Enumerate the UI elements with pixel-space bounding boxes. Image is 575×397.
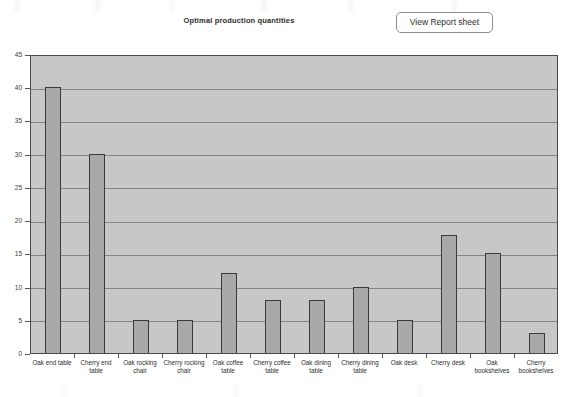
x-axis-tick-mark (118, 354, 119, 358)
y-axis: 051015202530354045 (0, 0, 27, 397)
bar (45, 87, 61, 353)
x-axis-category-label: Cherry desk (426, 359, 470, 367)
x-axis-tick-mark (514, 354, 515, 358)
x-axis-category-label: Oak coffee table (206, 359, 250, 376)
x-axis-category-label: Oak rocking chair (118, 359, 162, 376)
bar (309, 300, 325, 353)
y-axis-tick-mark (25, 221, 30, 222)
gridline (31, 188, 557, 189)
bar (89, 154, 105, 353)
x-axis-category-label: Cherry dining table (338, 359, 382, 376)
x-axis-tick-mark (294, 354, 295, 358)
x-axis-category-label: Cherry coffee table (250, 359, 294, 376)
x-axis-tick-mark (426, 354, 427, 358)
scan-artifact-top (0, 0, 575, 12)
y-axis-tick-label: 15 (0, 250, 22, 257)
x-axis-category-label: Oak dining table (294, 359, 338, 376)
gridline (31, 255, 557, 256)
x-axis-tick-mark (250, 354, 251, 358)
y-axis-tick-label: 10 (0, 284, 22, 291)
gridline (31, 288, 557, 289)
bar (353, 287, 369, 353)
bar (221, 273, 237, 353)
bar (177, 320, 193, 353)
x-axis-tick-mark (162, 354, 163, 358)
y-axis-tick-mark (25, 288, 30, 289)
bar (485, 253, 501, 353)
x-axis-tick-mark (470, 354, 471, 358)
bar (133, 320, 149, 353)
chart-screenshot: Optimal production quantities View Repor… (0, 0, 575, 397)
x-axis-category-label: Cherry rocking chair (162, 359, 206, 376)
x-axis-tick-mark (74, 354, 75, 358)
gridline (31, 222, 557, 223)
plot-area (30, 55, 558, 354)
y-axis-tick-label: 45 (0, 51, 22, 58)
y-axis-tick-mark (25, 354, 30, 355)
x-axis-category-label: Cherry bookshelves (514, 359, 558, 376)
gridline (31, 122, 557, 123)
y-axis-tick-label: 20 (0, 217, 22, 224)
x-axis-tick-mark (206, 354, 207, 358)
x-axis-category-label: Oak end table (30, 359, 74, 367)
gridline (31, 89, 557, 90)
y-axis-tick-label: 25 (0, 184, 22, 191)
y-axis-tick-mark (25, 121, 30, 122)
x-axis-tick-mark (338, 354, 339, 358)
bar (397, 320, 413, 353)
x-axis-tick-mark (382, 354, 383, 358)
y-axis-tick-label: 0 (0, 350, 22, 357)
bar (529, 333, 545, 353)
y-axis-tick-mark (25, 55, 30, 56)
y-axis-tick-mark (25, 254, 30, 255)
y-axis-tick-label: 5 (0, 317, 22, 324)
gridline (31, 321, 557, 322)
y-axis-tick-mark (25, 188, 30, 189)
y-axis-tick-mark (25, 88, 30, 89)
y-axis-tick-mark (25, 321, 30, 322)
y-axis-tick-label: 35 (0, 117, 22, 124)
x-axis-category-label: Oak bookshelves (470, 359, 514, 376)
x-axis-category-label: Cherry end table (74, 359, 118, 376)
y-axis-tick-label: 40 (0, 84, 22, 91)
bar (265, 300, 281, 353)
scan-artifact-bottom (0, 384, 575, 397)
y-axis-tick-label: 30 (0, 151, 22, 158)
gridline (31, 155, 557, 156)
view-report-sheet-button[interactable]: View Report sheet (396, 12, 493, 33)
x-axis-category-label: Oak desk (382, 359, 426, 367)
bar (441, 235, 457, 353)
y-axis-tick-mark (25, 155, 30, 156)
